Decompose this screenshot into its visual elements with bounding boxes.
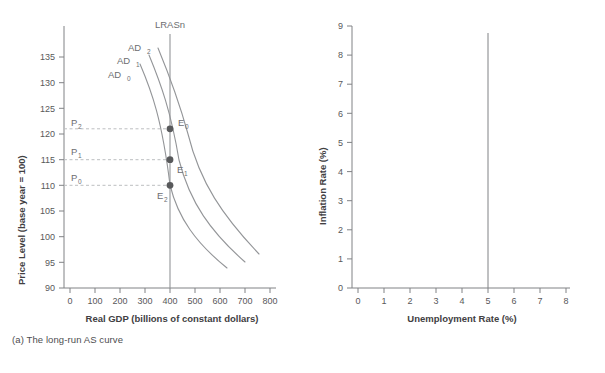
x-tick-label: 800 — [262, 296, 277, 306]
panel-b-x-axis-title: Unemployment Rate (%) — [407, 313, 516, 324]
x-tick-label: 2 — [407, 296, 412, 306]
panel-a-x-axis-title: Real GDP (billions of constant dollars) — [86, 313, 259, 324]
y-tick-label: 9 — [338, 21, 343, 31]
e2-label: E — [157, 190, 163, 201]
panel-vertical-phillips-curve: Inflation Rate (%) 0 1 2 3 — [300, 0, 605, 373]
panel-b-y-tick-labels: 0 1 2 3 4 5 6 7 8 9 — [338, 21, 343, 293]
y-tick-label: 5 — [338, 138, 343, 148]
panel-a-chart: Price Level (base year = 100) 90 95 — [0, 0, 310, 330]
panel-a-y-tick-labels: 90 95 100 105 110 115 120 125 130 135 — [40, 52, 55, 293]
y-tick-label: 6 — [338, 109, 343, 119]
p2-label-subscript: 2 — [78, 123, 82, 130]
x-tick-label: 500 — [187, 296, 202, 306]
p1-label: P — [71, 146, 77, 157]
y-tick-label: 100 — [40, 232, 55, 242]
ad0-label-subscript: 0 — [127, 75, 131, 82]
x-tick-label: 8 — [563, 296, 568, 306]
p0-label: P — [71, 172, 77, 183]
y-tick-label: 95 — [45, 258, 55, 268]
x-tick-label: 3 — [433, 296, 438, 306]
panel-long-run-as-curve: Price Level (base year = 100) 90 95 — [0, 0, 310, 373]
ad1-curve — [149, 55, 245, 262]
y-tick-label: 135 — [40, 52, 55, 62]
ad1-label-subscript: 1 — [136, 61, 140, 68]
x-tick-label: 400 — [162, 296, 177, 306]
ad2-label-subscript: 2 — [147, 48, 151, 55]
x-tick-label: 5 — [485, 296, 490, 306]
panel-a-x-tick-labels: 0 100 200 300 400 500 600 700 800 — [67, 296, 277, 306]
e0-label-subscript: 0 — [185, 123, 189, 130]
e1-label-subscript: 1 — [184, 170, 188, 177]
y-tick-label: 3 — [338, 196, 343, 206]
ad2-label: AD — [128, 42, 141, 53]
x-tick-label: 1 — [381, 296, 386, 306]
panel-a-x-ticks — [70, 288, 270, 293]
panel-b-x-tick-labels: 0 1 2 3 4 5 6 7 8 — [355, 296, 568, 306]
x-tick-label: 4 — [459, 296, 464, 306]
y-tick-label: 0 — [338, 283, 343, 293]
x-tick-label: 300 — [137, 296, 152, 306]
p2-label: P — [71, 117, 77, 128]
y-tick-label: 90 — [45, 283, 55, 293]
p0-label-subscript: 0 — [78, 178, 82, 185]
e2-label-subscript: 2 — [164, 196, 168, 203]
x-tick-label: 0 — [355, 296, 360, 306]
p1-label-subscript: 1 — [78, 152, 82, 159]
y-tick-label: 120 — [40, 129, 55, 139]
equilibrium-dot-e0 — [167, 125, 174, 132]
y-tick-label: 125 — [40, 104, 55, 114]
ad0-label-group: AD 0 — [108, 69, 131, 82]
x-tick-label: 600 — [212, 296, 227, 306]
ad0-label: AD — [108, 69, 121, 80]
panel-b-x-ticks — [358, 288, 566, 293]
x-tick-label: 700 — [237, 296, 252, 306]
y-tick-label: 2 — [338, 225, 343, 235]
panel-a-y-ticks — [59, 57, 64, 288]
panel-b-y-ticks — [347, 26, 352, 288]
y-tick-label: 115 — [41, 155, 55, 165]
ad1-label-group: AD 1 — [117, 55, 140, 68]
x-tick-label: 100 — [87, 296, 102, 306]
y-tick-label: 4 — [338, 167, 343, 177]
e2-label-group: E 2 — [157, 190, 168, 203]
y-tick-label: 110 — [41, 181, 55, 191]
e0-label-group: E 0 — [178, 117, 189, 130]
e0-label: E — [178, 117, 184, 128]
p2-label-group: P 2 — [71, 117, 82, 130]
p1-label-group: P 1 — [71, 146, 82, 159]
equilibrium-dot-e1 — [167, 156, 174, 163]
p0-label-group: P 0 — [71, 172, 82, 185]
ad0-curve — [140, 64, 227, 268]
y-tick-label: 8 — [338, 50, 343, 60]
equilibrium-dot-e2 — [167, 182, 174, 189]
y-tick-label: 7 — [338, 79, 343, 89]
panel-b-chart: Inflation Rate (%) 0 1 2 3 — [300, 0, 605, 330]
lras-label: LRASn — [155, 19, 185, 30]
ad1-label: AD — [117, 55, 130, 66]
panel-a-caption: (a) The long-run AS curve — [12, 334, 123, 345]
panel-b-y-axis-title: Inflation Rate (%) — [317, 147, 328, 225]
x-tick-label: 7 — [537, 296, 542, 306]
x-tick-label: 0 — [67, 296, 72, 306]
e1-label: E — [177, 164, 183, 175]
y-tick-label: 1 — [338, 254, 343, 264]
y-tick-label: 130 — [40, 78, 55, 88]
economics-figure: Price Level (base year = 100) 90 95 — [0, 0, 605, 373]
ad2-label-group: AD 2 — [128, 42, 151, 55]
y-tick-label: 105 — [40, 206, 55, 216]
x-tick-label: 200 — [112, 296, 127, 306]
e1-label-group: E 1 — [177, 164, 188, 177]
panel-a-y-axis-title: Price Level (base year = 100) — [16, 155, 27, 285]
x-tick-label: 6 — [511, 296, 516, 306]
